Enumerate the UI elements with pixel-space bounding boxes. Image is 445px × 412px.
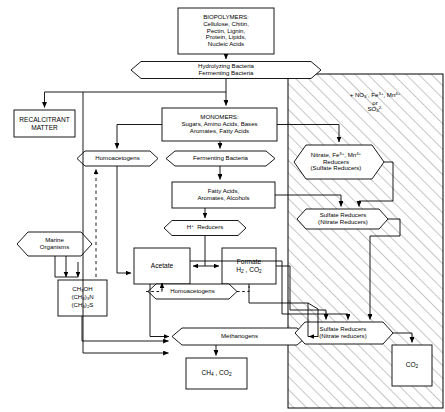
diagram-svg — [0, 0, 445, 412]
homoacetogens-mid-hexagon — [148, 284, 237, 299]
edge-hydrolyzing-recalcitrant — [45, 92, 227, 108]
formate-box — [222, 248, 276, 284]
homoacetogens-top-hexagon — [77, 151, 158, 166]
fermenting-bacteria-hexagon — [166, 151, 275, 166]
recalcitrant-box — [14, 110, 75, 137]
biopolymers-box — [178, 8, 274, 54]
monomers-box — [162, 108, 277, 141]
marine-organisms-hexagon — [17, 232, 92, 256]
fatty-acids-box — [172, 182, 275, 208]
methyl-compounds-box — [58, 280, 107, 316]
edge-homoacetogens-mid-formate — [237, 286, 249, 292]
hydrolyzing-hexagon — [131, 62, 321, 79]
co2-box — [392, 345, 432, 386]
diagram-canvas: BIOPOLYMERS: Cellulose, Chitin, Pectin, … — [0, 0, 445, 412]
sulfate-reducers-lower-hexagon — [295, 322, 393, 344]
edge-marine-methyl — [55, 256, 78, 277]
nitrate-reducers-hexagon — [294, 145, 384, 179]
methanogens-hexagon — [172, 328, 307, 345]
edge-homoacetogens-acetate-2 — [117, 192, 131, 273]
acetate-box — [134, 248, 190, 284]
sulfate-reducers-upper-hexagon — [297, 209, 388, 229]
edge-monomers-homoacetogens — [117, 125, 162, 149]
edge-methyl-methanogens — [82, 316, 169, 341]
methane-co2-box — [186, 358, 247, 389]
h-reducers-hexagon — [164, 221, 246, 236]
